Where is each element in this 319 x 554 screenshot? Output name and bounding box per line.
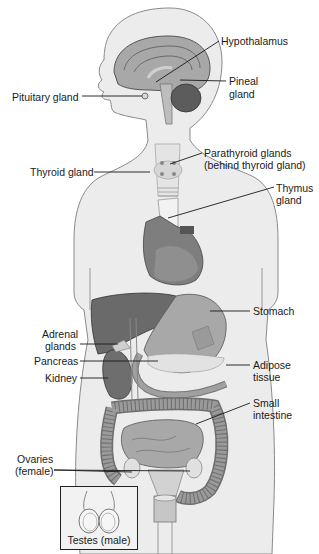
label-adrenal-line2: glands bbox=[45, 340, 76, 352]
label-stomach: Stomach bbox=[253, 305, 294, 317]
testes-inset: Testes (male) bbox=[60, 486, 138, 550]
label-ovaries-line2: (female) bbox=[15, 465, 54, 477]
label-ovaries-line1: Ovaries bbox=[17, 453, 53, 465]
label-thymus-line2: gland bbox=[276, 194, 302, 206]
label-thymus-line1: Thymus bbox=[276, 182, 313, 194]
label-small-intestine-line1: Small bbox=[253, 397, 279, 409]
label-small-intestine-line2: intestine bbox=[253, 409, 292, 421]
label-thyroid-gland: Thyroid gland bbox=[30, 166, 94, 178]
label-adrenal-line1: Adrenal bbox=[42, 328, 78, 340]
endocrine-system-diagram: Hypothalamus Pineal gland Pituitary glan… bbox=[0, 0, 319, 554]
label-kidney: Kidney bbox=[45, 372, 77, 384]
testes-illustration bbox=[61, 487, 137, 535]
label-adipose-line1: Adipose bbox=[253, 359, 291, 371]
label-pineal-line1: Pineal bbox=[229, 75, 258, 87]
label-parathyroid-line2: (behind thyroid gland) bbox=[204, 159, 306, 171]
label-parathyroid-line1: Parathyroid glands bbox=[204, 147, 292, 159]
cerebellum bbox=[171, 84, 201, 112]
ovary-right bbox=[186, 458, 202, 478]
pituitary-gland-shape bbox=[142, 93, 148, 99]
thyroid-shape bbox=[154, 161, 182, 179]
label-pineal-line2: gland bbox=[229, 88, 255, 100]
label-testes: Testes (male) bbox=[61, 534, 137, 546]
ovary-left bbox=[124, 458, 140, 478]
label-pituitary-gland: Pituitary gland bbox=[12, 91, 79, 103]
label-hypothalamus: Hypothalamus bbox=[221, 35, 288, 47]
label-pancreas: Pancreas bbox=[34, 355, 78, 367]
label-adipose-line2: tissue bbox=[253, 371, 280, 383]
